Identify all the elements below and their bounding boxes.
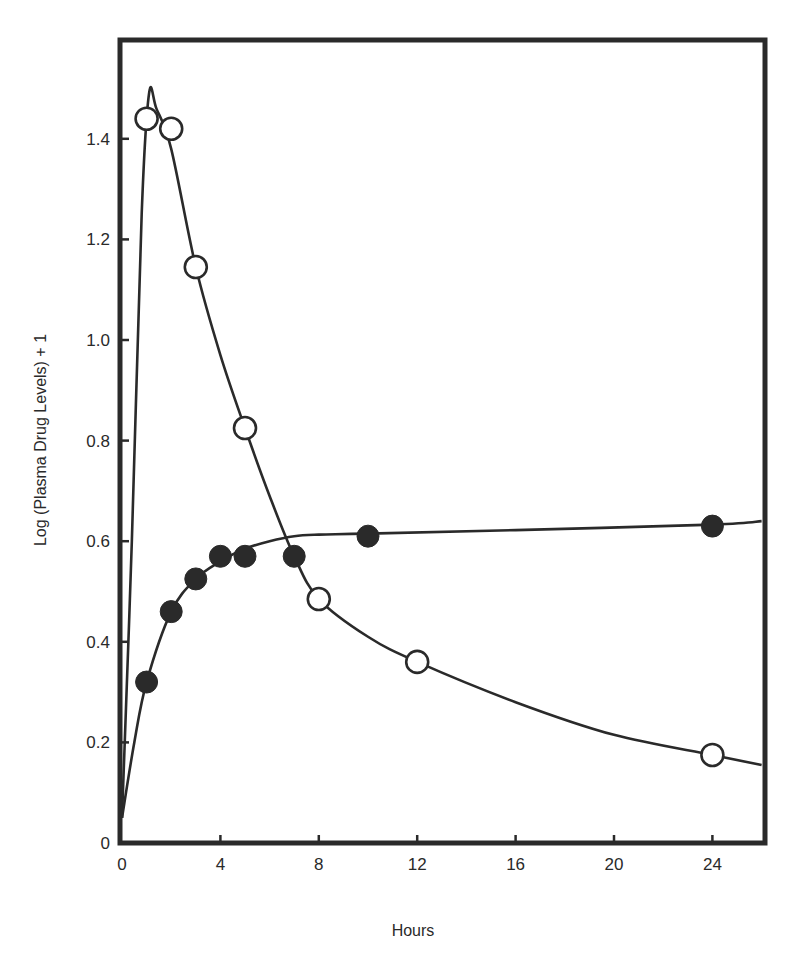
filled-circle-marker: [185, 568, 207, 590]
y-tick-label: 0: [101, 834, 110, 853]
filled-circle-marker: [136, 671, 158, 693]
curve-open: [122, 87, 762, 818]
y-axis-title: Log (Plasma Drug Levels) + 1: [32, 334, 49, 546]
open-circle-marker: [136, 108, 158, 130]
chart-canvas: 04812162024 00.20.40.60.81.01.21.4 Hours…: [0, 0, 801, 966]
open-circle-marker: [701, 744, 723, 766]
y-tick-label: 0.6: [86, 532, 110, 551]
filled-circle-marker: [234, 545, 256, 567]
x-tick-label: 16: [506, 855, 525, 874]
x-tick-label: 4: [216, 855, 225, 874]
y-tick-label: 0.4: [86, 633, 110, 652]
x-tick-label: 24: [703, 855, 722, 874]
y-tick-label: 0.8: [86, 432, 110, 451]
x-axis-title: Hours: [392, 922, 435, 939]
open-circle-marker: [185, 256, 207, 278]
x-tick-label: 20: [605, 855, 624, 874]
open-circle-marker: [406, 651, 428, 673]
y-tick-label: 0.2: [86, 733, 110, 752]
filled-circle-marker: [283, 545, 305, 567]
filled-circle-marker: [357, 525, 379, 547]
x-tick-label: 8: [314, 855, 323, 874]
fitted-curves: [122, 87, 762, 818]
plot-frame: [120, 40, 765, 843]
filled-circle-marker: [701, 515, 723, 537]
open-circle-marker: [160, 118, 182, 140]
y-tick-label: 1.2: [86, 230, 110, 249]
filled-circle-marker: [209, 545, 231, 567]
open-circle-marker: [308, 588, 330, 610]
open-circle-marker: [234, 417, 256, 439]
y-axis: 00.20.40.60.81.01.21.4: [86, 130, 129, 853]
y-tick-label: 1.0: [86, 331, 110, 350]
x-tick-label: 12: [408, 855, 427, 874]
x-tick-label: 0: [117, 855, 126, 874]
filled-circle-marker: [160, 601, 182, 623]
y-tick-label: 1.4: [86, 130, 110, 149]
